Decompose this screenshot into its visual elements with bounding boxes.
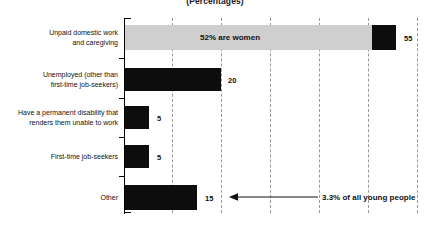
category-label-line-2: renders them unable to work (0, 118, 118, 128)
bar-segment-unpaid-domestic-work-end (372, 25, 396, 50)
category-label-line-1: Other (0, 193, 118, 203)
category-label-line-2: first-time job-seekers) (0, 80, 118, 90)
category-label-permanent-disability: Have a permanent disability that renders… (0, 108, 118, 127)
value-label-permanent-disability: 5 (157, 114, 161, 123)
category-label-line-1: First-time job-seekers (0, 152, 118, 162)
bar-chart: (Percentages) 52% are women 55 Unpaid do… (0, 0, 430, 228)
bar-first-time-job-seekers (125, 145, 149, 168)
category-label-line-1: Have a permanent disability that (0, 108, 118, 118)
category-label-other: Other (0, 193, 118, 203)
value-label-other: 15 (205, 194, 213, 203)
category-label-line-1: Unemployed (other than (0, 70, 118, 80)
y-axis-tick-2 (119, 98, 125, 99)
gridline-60 (417, 18, 418, 213)
y-axis-tick-1 (119, 58, 125, 59)
y-axis-tick-3 (119, 137, 125, 138)
value-label-unemployed: 20 (228, 76, 236, 85)
annotation-young-people-share: 3.3% of all young people (322, 193, 415, 202)
y-axis-bottom-cap (124, 212, 131, 213)
y-axis-top-cap (124, 18, 131, 19)
category-label-first-time-job-seekers: First-time job-seekers (0, 152, 118, 162)
value-label-first-time-job-seekers: 5 (157, 153, 161, 162)
annotation-women-share: 52% are women (200, 33, 260, 42)
category-label-line-1: Unpaid domestic work (0, 28, 118, 38)
chart-subtitle: (Percentages) (0, 0, 430, 6)
category-label-unemployed: Unemployed (other than first-time job-se… (0, 70, 118, 89)
value-label-unpaid-domestic-work: 55 (404, 34, 412, 43)
annotation-arrow-young-people (226, 190, 321, 204)
category-label-line-2: and caregiving (0, 38, 118, 48)
bar-permanent-disability (125, 106, 149, 129)
y-axis-tick-4 (119, 176, 125, 177)
category-label-unpaid-domestic-work: Unpaid domestic work and caregiving (0, 28, 118, 47)
bar-other (125, 185, 197, 210)
bar-unemployed (125, 68, 221, 91)
